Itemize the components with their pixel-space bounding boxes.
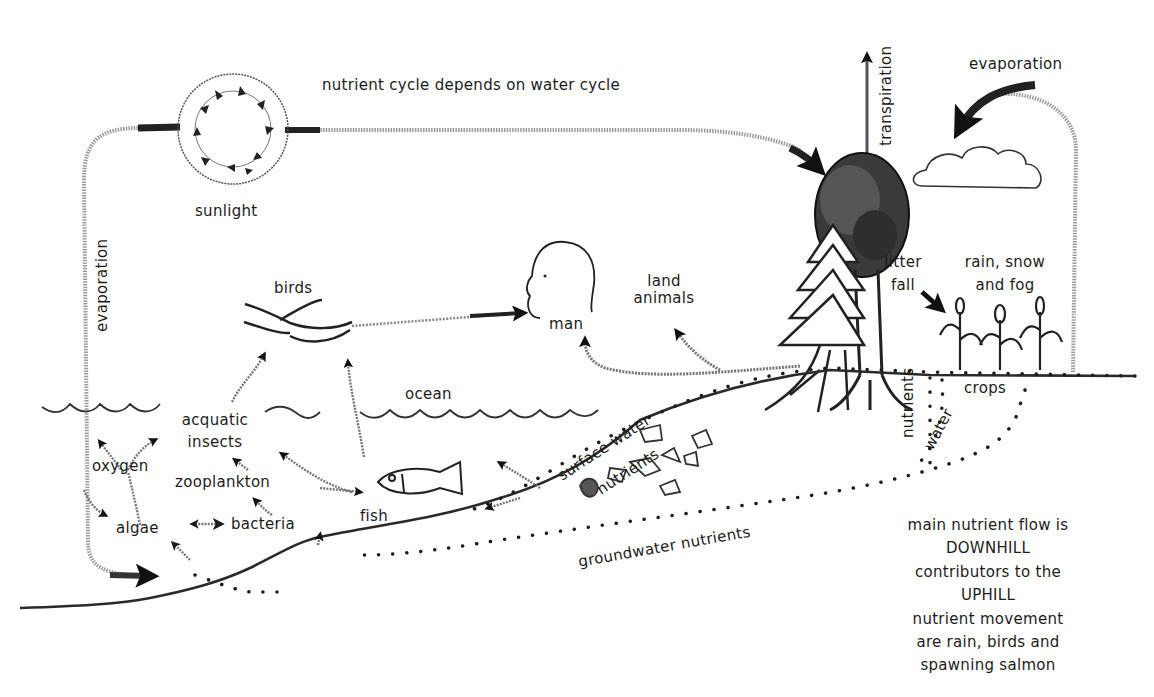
cycle-arrow-to-tree — [790, 148, 818, 168]
sun-ray-left — [138, 127, 180, 128]
note-line-1: main nutrient flow is — [838, 514, 1138, 537]
title-label: nutrient cycle depends on water cycle — [322, 77, 620, 94]
evaporation-left-label: evaporation — [94, 239, 111, 332]
note-line-2: DOWNHILL — [838, 537, 1138, 560]
land-animals-line-1: land — [624, 273, 704, 290]
evaporation-right-label: evaporation — [969, 56, 1062, 73]
note-line-5: nutrient movement — [838, 608, 1138, 631]
land-to-man-arrow — [585, 340, 800, 374]
acquatic-insects-label: acquatic insects — [170, 409, 260, 453]
rain-snow-fog-label: rain, snow and fog — [955, 251, 1055, 297]
rain-line-2: and fog — [955, 274, 1055, 297]
note-line-6: are rain, birds and — [838, 631, 1138, 654]
ocean-surface — [42, 404, 598, 418]
summary-note: main nutrient flow is DOWNHILL contribut… — [838, 514, 1138, 678]
birds-to-man-arrow — [470, 313, 522, 316]
litter-fall-label: litter fall — [878, 251, 928, 297]
bacteria-label: bacteria — [231, 516, 295, 533]
acquatic-line-1: acquatic — [170, 409, 260, 431]
crops-label: crops — [964, 380, 1006, 397]
man-label: man — [549, 316, 583, 333]
litter-fall-line-1: litter — [878, 251, 928, 274]
acquatic-line-2: insects — [170, 431, 260, 453]
note-line-3: contributors to the — [838, 561, 1138, 584]
evaporation-loop-arrow — [110, 575, 150, 576]
man-head-icon — [527, 242, 594, 318]
cloud-icon — [913, 147, 1041, 188]
land-to-animals-arrow — [677, 332, 720, 370]
sun-icon — [178, 74, 288, 184]
fish-label: fish — [360, 508, 388, 525]
note-line-4: UPHILL — [838, 584, 1138, 607]
land-animals-line-2: animals — [624, 290, 704, 307]
nutrients-vertical-label: nutrients — [900, 368, 917, 438]
litter-fall-line-2: fall — [878, 274, 928, 297]
birds-label: birds — [274, 280, 312, 297]
ocean-label: ocean — [405, 386, 452, 403]
land-animals-label: land animals — [624, 273, 704, 307]
conifer-tree-icon — [765, 225, 864, 412]
crops-icon — [940, 297, 1062, 370]
rain-line-1: rain, snow — [955, 251, 1055, 274]
bird-icon — [244, 300, 352, 341]
evaporation-arrow-to-cloud — [960, 85, 1035, 128]
algae-label: algae — [116, 520, 159, 537]
fish-icon — [378, 462, 462, 494]
note-line-7: spawning salmon — [838, 654, 1138, 677]
transpiration-label: transpiration — [878, 46, 895, 146]
zooplankton-label: zooplankton — [175, 474, 270, 491]
oxygen-label: oxygen — [92, 458, 149, 475]
sunlight-label: sunlight — [195, 203, 257, 220]
nutrient-cycle-diagram: nutrient cycle depends on water cycle su… — [0, 0, 1154, 697]
